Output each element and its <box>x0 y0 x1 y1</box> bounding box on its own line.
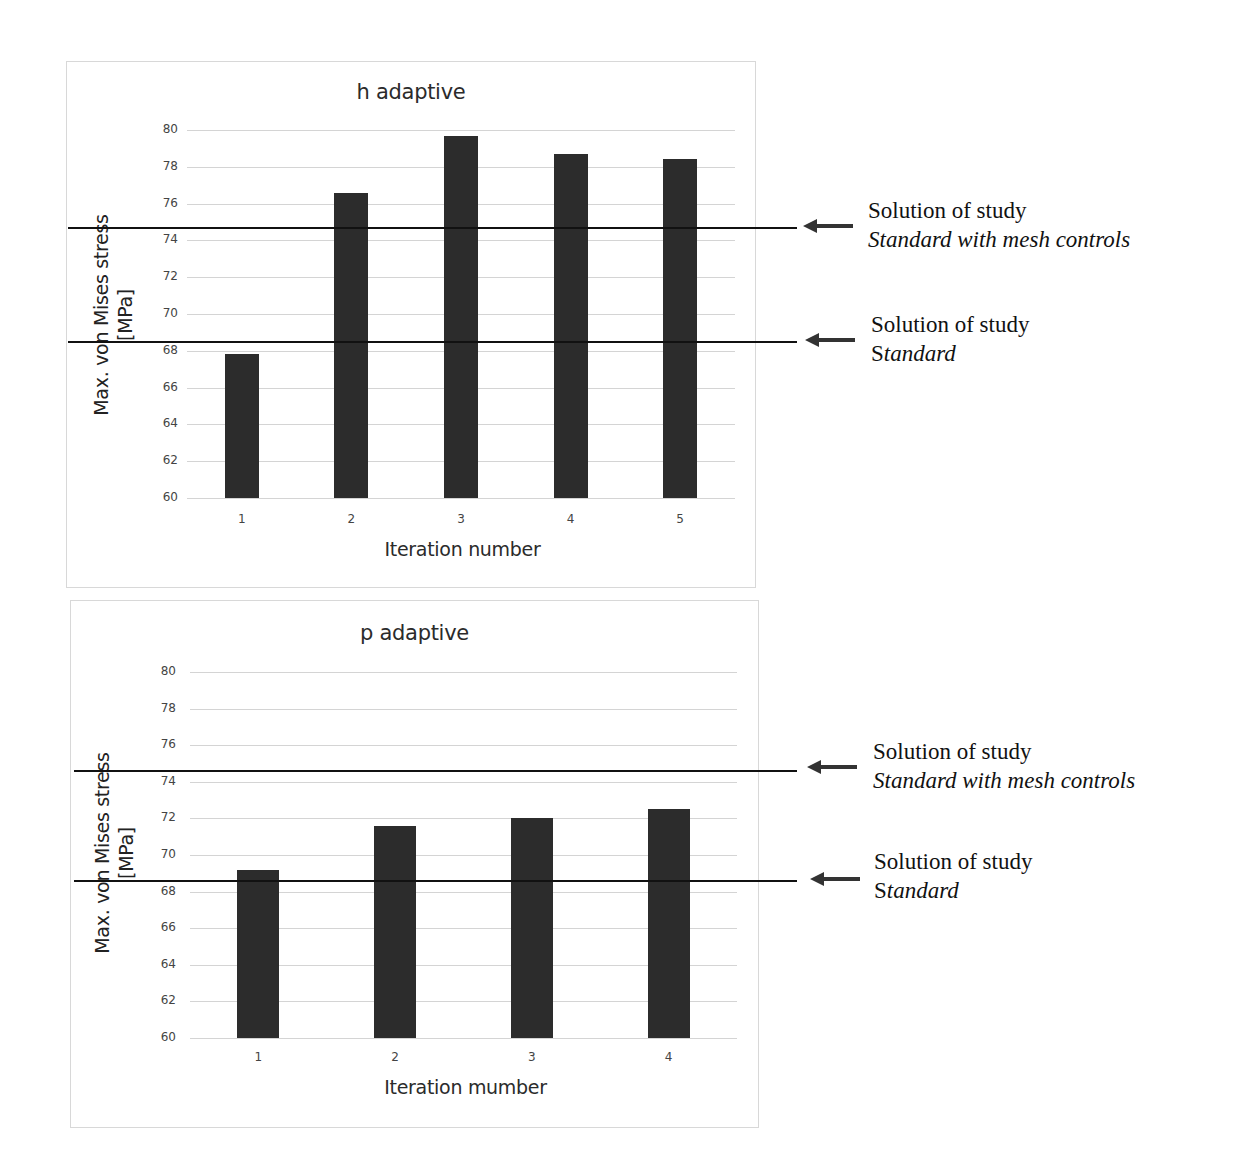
y-tick-label: 60 <box>148 490 178 504</box>
annotation-line1: Solution of study <box>871 310 1029 339</box>
annotation-mesh-controls: Solution of study Standard with mesh con… <box>868 196 1130 254</box>
annotation-line1: Solution of study <box>873 737 1135 766</box>
y-tick-label: 68 <box>148 343 178 357</box>
reference-line <box>74 880 797 882</box>
x-tick-label: 1 <box>248 1050 268 1064</box>
y-tick-label: 70 <box>148 306 178 320</box>
annotation-line2-upright: S <box>874 878 887 903</box>
reference-line <box>74 770 797 772</box>
y-tick-label: 78 <box>146 701 176 715</box>
y-tick-label: 72 <box>146 810 176 824</box>
x-tick-label: 3 <box>451 512 471 526</box>
y-tick-label: 68 <box>146 884 176 898</box>
annotation-standard: Solution of study Standard <box>874 847 1032 905</box>
y-tick-label: 66 <box>146 920 176 934</box>
y-tick-label: 74 <box>146 774 176 788</box>
y-tick-label: 72 <box>148 269 178 283</box>
bar <box>511 818 553 1038</box>
gridline <box>190 709 737 710</box>
arrow-left-icon <box>803 219 853 233</box>
arrow-left-icon <box>807 760 857 774</box>
reference-line <box>68 227 797 229</box>
x-tick-label: 4 <box>561 512 581 526</box>
annotation-line2: tandard <box>884 341 956 366</box>
annotation-line1: Solution of study <box>874 847 1032 876</box>
y-tick-label: 66 <box>148 380 178 394</box>
gridline <box>190 672 737 673</box>
y-tick-label: 70 <box>146 847 176 861</box>
annotation-line2: tandard <box>887 878 959 903</box>
annotation-line2: Standard with mesh controls <box>873 766 1135 795</box>
bar <box>334 193 368 498</box>
x-tick-label: 2 <box>385 1050 405 1064</box>
gridline <box>187 498 735 499</box>
bar <box>374 826 416 1038</box>
gridline <box>190 782 737 783</box>
annotation-standard: Solution of study Standard <box>871 310 1029 368</box>
y-tick-label: 62 <box>148 453 178 467</box>
gridline <box>187 130 735 131</box>
annotation-mesh-controls: Solution of study Standard with mesh con… <box>873 737 1135 795</box>
arrow-left-icon <box>810 872 860 886</box>
annotation-line2-upright: S <box>871 341 884 366</box>
annotation-line1: Solution of study <box>868 196 1130 225</box>
annotation-line2: Standard with mesh controls <box>868 225 1130 254</box>
y-tick-label: 80 <box>146 664 176 678</box>
gridline <box>190 745 737 746</box>
y-axis-label-line2: [MPa] <box>115 827 137 879</box>
gridline <box>190 1038 737 1039</box>
bar <box>225 354 259 498</box>
x-axis-label: Iteration number <box>190 538 735 560</box>
h-adaptive-chart-frame: h adaptive <box>66 61 756 588</box>
y-tick-label: 64 <box>148 416 178 430</box>
y-axis-label-line1: Max. von Mises stress <box>90 214 112 415</box>
arrow-left-icon <box>805 333 855 347</box>
y-tick-label: 76 <box>148 196 178 210</box>
y-axis-label: Max. von Mises stress [MPa] <box>90 723 138 983</box>
y-axis-label-line2: [MPa] <box>114 289 136 341</box>
chart-title: p adaptive <box>71 621 758 645</box>
bar <box>648 809 690 1038</box>
y-axis-label-line1: Max. von Mises stress <box>91 752 113 953</box>
reference-line <box>68 341 797 343</box>
x-axis-label: Iteration mumber <box>193 1076 738 1098</box>
chart-title: h adaptive <box>67 80 755 104</box>
x-tick-label: 3 <box>522 1050 542 1064</box>
y-tick-label: 80 <box>148 122 178 136</box>
y-tick-label: 64 <box>146 957 176 971</box>
x-tick-label: 4 <box>659 1050 679 1064</box>
y-tick-label: 76 <box>146 737 176 751</box>
bar <box>237 870 279 1038</box>
bar <box>554 154 588 498</box>
x-tick-label: 5 <box>670 512 690 526</box>
y-tick-label: 60 <box>146 1030 176 1044</box>
y-tick-label: 74 <box>148 232 178 246</box>
y-tick-label: 78 <box>148 159 178 173</box>
y-axis-label: Max. von Mises stress [MPa] <box>89 185 137 445</box>
bar <box>444 136 478 498</box>
y-tick-label: 62 <box>146 993 176 1007</box>
x-tick-label: 2 <box>341 512 361 526</box>
bar <box>663 159 697 498</box>
x-tick-label: 1 <box>232 512 252 526</box>
